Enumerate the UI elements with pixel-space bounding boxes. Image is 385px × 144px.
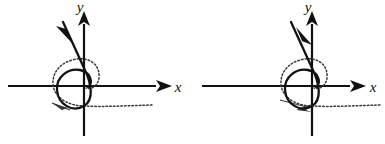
dotted-spiral-curve <box>53 59 152 107</box>
x-axis-arrowhead <box>350 80 366 92</box>
y-axis-label: y <box>75 0 84 15</box>
x-axis-label: x <box>369 79 377 95</box>
x-axis-label: x <box>174 79 182 95</box>
phase-portrait-figure: x y x <box>0 0 385 144</box>
x-axis-arrowhead <box>156 80 172 92</box>
panel-right-unstable-spiral: x y <box>192 0 385 144</box>
y-axis-label: y <box>303 0 312 15</box>
dotted-spiral-curve <box>281 59 380 107</box>
panel-left-stable-spiral: x y <box>0 0 193 144</box>
